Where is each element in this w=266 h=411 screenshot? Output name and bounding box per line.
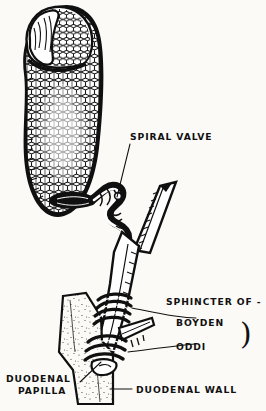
label-spiral-valve: SPIRAL VALVE — [130, 131, 212, 142]
label-brace: ) — [240, 316, 252, 351]
label-boyden: BOYDEN — [176, 317, 224, 328]
label-duodenal-papilla-line2: PAPILLA — [18, 385, 66, 396]
diagram-canvas: SPIRAL VALVE SPHINCTER OF - BOYDEN ODDI … — [0, 0, 266, 411]
label-duodenal-papilla-line1: DUODENAL — [6, 373, 71, 384]
anatomical-figure: SPIRAL VALVE SPHINCTER OF - BOYDEN ODDI … — [0, 0, 266, 411]
label-duodenal-wall: DUODENAL WALL — [136, 384, 237, 395]
label-oddi: ODDI — [176, 341, 206, 352]
label-sphincter-of: SPHINCTER OF - — [166, 296, 261, 307]
